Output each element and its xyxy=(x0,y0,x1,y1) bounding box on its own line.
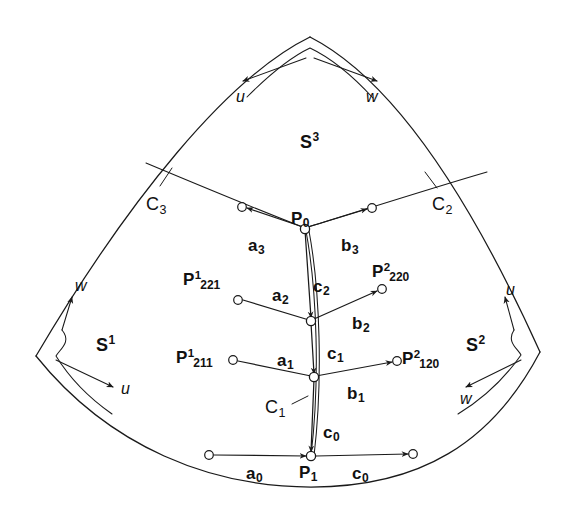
curve-label-c2: C2 xyxy=(432,195,452,216)
param-label-u-left: u xyxy=(121,381,130,397)
param-label-w-right: w xyxy=(460,391,472,407)
vector-label-c0-baseline: c0 xyxy=(352,465,369,484)
patch-label-s2: S2 xyxy=(466,334,485,354)
outer-boundary xyxy=(36,37,540,487)
param-label-w-top: w xyxy=(366,89,378,105)
vector-label-a3: a3 xyxy=(248,237,265,256)
control-edge-b3 xyxy=(308,204,376,227)
vector-label-c0-vertical: c0 xyxy=(323,424,340,443)
curve-label-c3: C3 xyxy=(146,195,166,216)
point-label-p2-220: P2220 xyxy=(372,262,409,283)
vector-label-b1: b1 xyxy=(347,385,365,404)
point-label-p0: P0 xyxy=(291,210,310,229)
vector-label-c2: c2 xyxy=(313,278,330,297)
vector-label-a2: a2 xyxy=(272,287,289,306)
point-label-p1: P1 xyxy=(299,464,318,483)
point-label-p2-120: P2120 xyxy=(402,349,439,370)
diagram-svg xyxy=(0,0,580,509)
control-edge-a1 xyxy=(229,356,311,376)
param-label-u-right: u xyxy=(506,282,515,298)
curve-label-c1: C1 xyxy=(265,398,285,419)
control-edge-a0 xyxy=(205,451,306,460)
vector-label-a1: a1 xyxy=(277,352,294,371)
figure-canvas: S1 S2 S3 C1 C2 C3 P0 P1 P1221 P1211 P222… xyxy=(0,0,580,509)
control-chain-vertical xyxy=(305,230,314,452)
vector-label-b2: b2 xyxy=(352,315,370,334)
point-label-p1-221: P1221 xyxy=(183,270,220,291)
control-edge-c0-baseline xyxy=(316,450,417,459)
point-label-p1-211: P1211 xyxy=(176,348,213,369)
patch-label-s1: S1 xyxy=(96,334,115,354)
patch-label-s3: S3 xyxy=(300,131,319,151)
param-label-w-left: w xyxy=(75,278,87,294)
vector-label-b3: b3 xyxy=(341,237,359,256)
param-label-u-top: u xyxy=(236,89,245,105)
interior-curve-c3 xyxy=(146,163,305,228)
vector-label-c1: c1 xyxy=(327,345,344,364)
vector-label-a0: a0 xyxy=(246,465,263,484)
